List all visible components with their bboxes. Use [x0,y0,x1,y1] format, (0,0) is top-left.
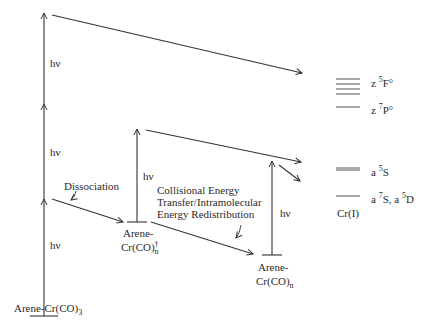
level-label-z5F: z 5F° [371,74,393,89]
level-label-z7P: z 7P° [371,101,393,116]
level-z5F-prefix: z [371,77,379,89]
photon-label-middle: hν [50,146,60,158]
cr-atom-label: Cr(I) [337,207,359,219]
species-relaxed-sub: n [290,281,294,290]
photon-label-relaxed: hν [280,207,290,219]
collisional-label-line1: Collisional Energy [157,184,262,196]
collisional-label: Collisional Energy Transfer/Intramolecul… [157,184,262,220]
photon-label-top: hν [50,57,60,69]
species-ground-formula: Arene-Cr(CO) [14,302,78,314]
diag-dissociation [52,199,123,222]
species-relaxed: Arene- Cr(CO)n [256,261,294,292]
level-z7P-term: P° [383,104,394,116]
level-a7S-prefix: a [371,193,379,205]
collisional-label-line3: Energy Redistribution [157,208,262,220]
diag-top [52,15,302,73]
diag-mid [146,130,301,162]
collisional-pointer [236,225,241,238]
level-a7S-term: S, a [383,193,402,205]
photon-label-excited: hν [143,170,153,182]
level-a5D-term: D [406,193,414,205]
level-a5S-prefix: a [371,166,379,178]
dissociation-pointer [71,191,76,200]
species-excited-sub: n [155,248,159,255]
diag-collisional [151,222,253,254]
collisional-label-line2: Transfer/Intramolecular [157,196,262,208]
dissociation-label: Dissociation [64,180,119,192]
species-excited-formula: Cr(CO) [121,241,155,253]
level-z5F-term: F° [383,77,394,89]
species-relaxed-line1: Arene- [256,261,294,273]
species-ground: Arene-Cr(CO)3 [14,302,82,319]
level-label-a7S-a5D: a 7S, a 5D [371,190,414,205]
species-excited: Arene- Cr(CO)†n [121,227,159,255]
level-a5S-term: S [383,166,389,178]
level-label-a5S: a 5S [371,163,389,178]
photon-label-bottom: hν [50,239,60,251]
level-z7P-prefix: z [371,104,379,116]
species-relaxed-formula: Cr(CO) [256,275,290,287]
energy-diagram-lines [0,0,428,326]
diag-short [279,165,300,181]
species-excited-line1: Arene- [121,227,159,239]
species-ground-sub: 3 [78,308,82,317]
